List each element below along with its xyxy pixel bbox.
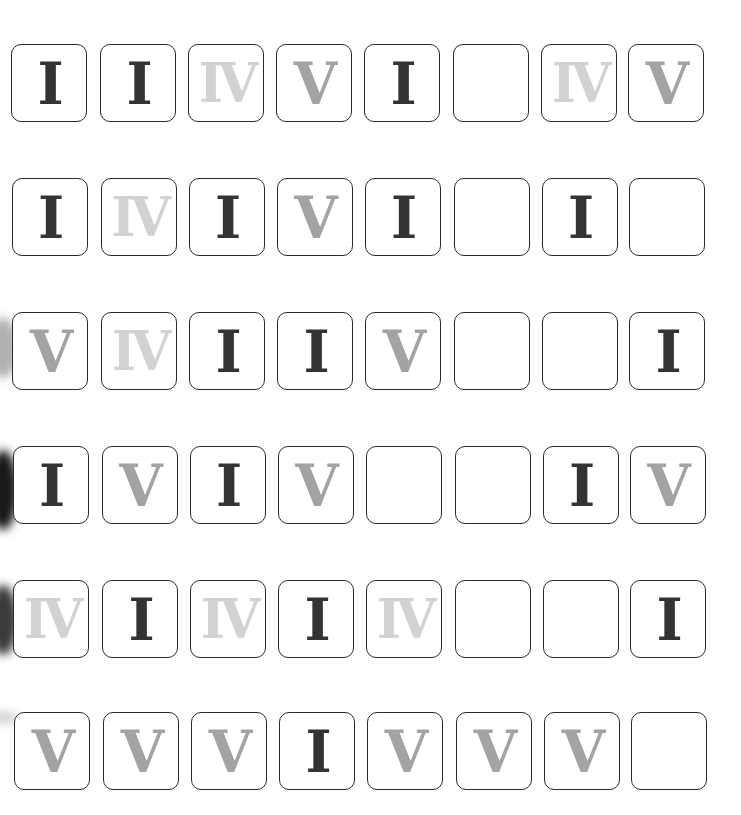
numeral-tile[interactable]: V xyxy=(456,712,532,790)
tile-numeral-label: V xyxy=(562,722,602,781)
numeral-tile[interactable]: I xyxy=(278,580,354,658)
tile-row-6: VVVIVVV xyxy=(0,712,741,794)
tile-numeral-label: IV xyxy=(201,592,256,647)
numeral-tile[interactable]: I xyxy=(364,44,440,122)
empty-tile[interactable] xyxy=(453,44,529,122)
tile-numeral-label: I xyxy=(216,456,239,515)
tile-numeral-label: IV xyxy=(199,56,254,111)
empty-tile[interactable] xyxy=(454,178,530,256)
numeral-tile[interactable]: V xyxy=(367,712,443,790)
tile-numeral-label: I xyxy=(305,722,328,781)
numeral-tile[interactable]: I xyxy=(279,712,355,790)
tile-row-4: IVIVIV xyxy=(0,446,741,528)
numeral-tile[interactable]: IV xyxy=(188,44,264,122)
tile-numeral-label: I xyxy=(215,188,238,247)
numeral-tile[interactable]: I xyxy=(189,178,265,256)
empty-tile[interactable] xyxy=(543,580,619,658)
numeral-tile[interactable]: V xyxy=(628,44,704,122)
numeral-tile[interactable]: V xyxy=(544,712,620,790)
tile-row-1: IIIVVIIVV xyxy=(0,44,741,126)
numeral-tile[interactable]: I xyxy=(543,446,619,524)
numeral-tile[interactable]: I xyxy=(630,580,706,658)
numeral-tile[interactable]: V xyxy=(630,446,706,524)
tile-numeral-label: I xyxy=(303,322,326,381)
numeral-tile[interactable]: I xyxy=(13,446,89,524)
numeral-tile[interactable]: I xyxy=(365,178,441,256)
numeral-tile[interactable]: IV xyxy=(101,178,177,256)
tile-numeral-label: V xyxy=(121,722,161,781)
tile-numeral-label: I xyxy=(656,590,679,649)
numeral-tile[interactable]: I xyxy=(629,312,705,390)
tile-row-2: IIVIVII xyxy=(0,178,741,260)
tile-numeral-label: I xyxy=(390,54,413,113)
tile-numeral-label: I xyxy=(126,54,149,113)
tile-numeral-label: V xyxy=(209,722,249,781)
numeral-tile[interactable]: V xyxy=(14,712,90,790)
numeral-tile[interactable]: I xyxy=(100,44,176,122)
numeral-tile[interactable]: I xyxy=(11,44,87,122)
numeral-tile[interactable]: I xyxy=(190,446,266,524)
tile-numeral-label: V xyxy=(294,188,334,247)
empty-tile[interactable] xyxy=(454,312,530,390)
tile-numeral-label: V xyxy=(383,322,423,381)
roman-numeral-tile-grid: IIIVVIIVVIIVIVIIVIVIIVIIVIVIVIVIIVIIVIVV… xyxy=(0,0,741,815)
tile-numeral-label: V xyxy=(295,456,335,515)
tile-numeral-label: I xyxy=(568,188,591,247)
numeral-tile[interactable]: IV xyxy=(190,580,266,658)
numeral-tile[interactable]: V xyxy=(365,312,441,390)
tile-numeral-label: I xyxy=(37,54,60,113)
tile-numeral-label: V xyxy=(647,456,687,515)
tile-numeral-label: I xyxy=(215,322,238,381)
tile-numeral-label: V xyxy=(385,722,425,781)
tile-numeral-label: I xyxy=(39,456,62,515)
tile-numeral-label: V xyxy=(474,722,514,781)
tile-numeral-label: I xyxy=(655,322,678,381)
numeral-tile[interactable]: V xyxy=(276,44,352,122)
empty-tile[interactable] xyxy=(455,580,531,658)
numeral-tile[interactable]: V xyxy=(191,712,267,790)
numeral-tile[interactable]: I xyxy=(542,178,618,256)
numeral-tile[interactable]: V xyxy=(278,446,354,524)
tile-numeral-label: V xyxy=(30,322,70,381)
tile-numeral-label: I xyxy=(128,590,151,649)
tile-numeral-label: I xyxy=(391,188,414,247)
numeral-tile[interactable]: IV xyxy=(541,44,617,122)
empty-tile[interactable] xyxy=(455,446,531,524)
numeral-tile[interactable]: V xyxy=(277,178,353,256)
numeral-tile[interactable]: IV xyxy=(101,312,177,390)
tile-row-5: IVIIVIIVI xyxy=(0,580,741,662)
tile-numeral-label: V xyxy=(294,54,334,113)
tile-row-3: VIVIIVI xyxy=(0,312,741,394)
tile-numeral-label: IV xyxy=(552,56,607,111)
numeral-tile[interactable]: I xyxy=(12,178,88,256)
tile-numeral-label: I xyxy=(304,590,327,649)
tile-numeral-label: IV xyxy=(112,324,167,379)
numeral-tile[interactable]: V xyxy=(12,312,88,390)
empty-tile[interactable] xyxy=(542,312,618,390)
numeral-tile[interactable]: V xyxy=(102,446,178,524)
tile-numeral-label: V xyxy=(32,722,72,781)
tile-numeral-label: V xyxy=(119,456,159,515)
numeral-tile[interactable]: IV xyxy=(13,580,89,658)
tile-numeral-label: V xyxy=(646,54,686,113)
numeral-tile[interactable]: I xyxy=(102,580,178,658)
numeral-tile[interactable]: I xyxy=(277,312,353,390)
empty-tile[interactable] xyxy=(366,446,442,524)
tile-numeral-label: IV xyxy=(377,592,432,647)
tile-numeral-label: IV xyxy=(111,190,166,245)
numeral-tile[interactable]: V xyxy=(103,712,179,790)
empty-tile[interactable] xyxy=(629,178,705,256)
numeral-tile[interactable]: IV xyxy=(366,580,442,658)
tile-numeral-label: I xyxy=(569,456,592,515)
tile-numeral-label: I xyxy=(38,188,61,247)
numeral-tile[interactable]: I xyxy=(189,312,265,390)
tile-numeral-label: IV xyxy=(24,592,79,647)
empty-tile[interactable] xyxy=(631,712,707,790)
